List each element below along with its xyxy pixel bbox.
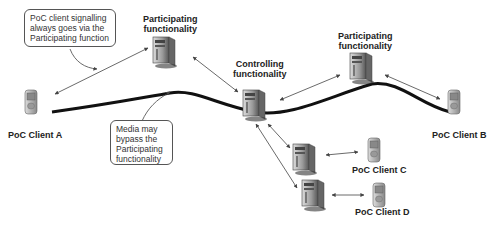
- controlling-server-icon: [243, 90, 267, 122]
- signalling-callout: PoC client signalling always goes via th…: [24, 9, 116, 47]
- client-d-label: PoC Client D: [355, 207, 410, 217]
- participating-left-label: Participating functionality: [143, 14, 198, 34]
- client-d-server-icon: [302, 180, 326, 212]
- client-b-label: PoC Client B: [432, 130, 487, 140]
- participating-server-left-icon: [153, 37, 177, 69]
- client-a-label: PoC Client A: [8, 130, 62, 140]
- poc-architecture-diagram: PoC client signalling always goes via th…: [0, 0, 493, 228]
- media-callout: Media may bypass the Participating funct…: [110, 120, 173, 165]
- client-c-phone-icon: [368, 138, 380, 162]
- client-a-phone-icon: [25, 90, 37, 114]
- client-c-server-icon: [293, 144, 317, 176]
- client-d-phone-icon: [373, 183, 385, 207]
- participating-right-label: Participating functionality: [338, 31, 393, 51]
- participating-server-right-icon: [350, 53, 374, 85]
- client-b-phone-icon: [448, 90, 460, 114]
- client-c-label: PoC Client C: [352, 165, 407, 175]
- controlling-label: Controlling functionality: [233, 59, 287, 79]
